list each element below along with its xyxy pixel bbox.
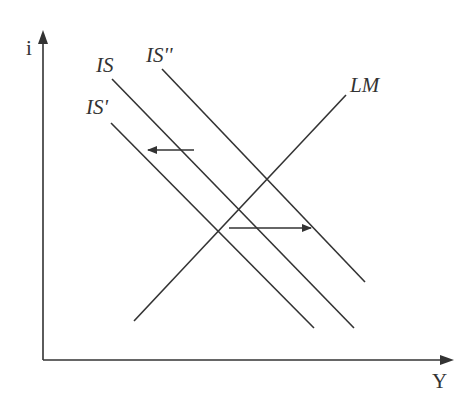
curve-labels: IS IS' IS'' LM [85, 43, 381, 119]
is-double-prime-label: IS'' [145, 43, 173, 67]
is-prime-curve [111, 123, 314, 328]
x-axis-label: Y [432, 369, 447, 393]
is-prime-label: IS' [85, 95, 108, 119]
is-label: IS [95, 53, 114, 77]
lm-label: LM [349, 73, 381, 97]
x-axis-arrowhead-icon [440, 355, 454, 365]
is-lm-diagram: i Y IS IS' IS'' LM [0, 0, 472, 413]
y-axis-arrowhead-icon [38, 30, 48, 44]
is-double-prime-curve [162, 69, 365, 282]
curves [111, 69, 365, 328]
shift-arrows [148, 150, 311, 228]
is-curve [112, 79, 354, 328]
y-axis-label: i [26, 36, 32, 60]
